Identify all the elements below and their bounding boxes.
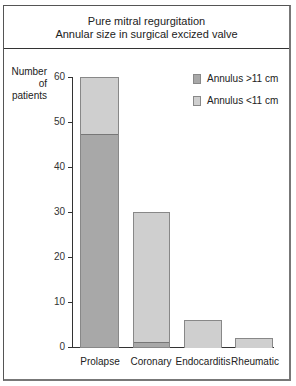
chart-title: Pure mitral regurgitation (4, 15, 289, 28)
y-tick-label: 10 (48, 297, 65, 307)
legend-label: Annulus >11 cm (207, 74, 278, 84)
chart-subtitle: Annular size in surgical excized valve (4, 28, 289, 41)
legend-swatch-dark (193, 74, 201, 84)
bar-rheumatic (235, 338, 273, 348)
y-tick-0 (68, 347, 72, 348)
y-tick-40 (68, 167, 72, 168)
y-tick-label: 60 (48, 72, 65, 82)
bar-prolapse (80, 77, 119, 348)
bar-segment-lt-11 (134, 213, 169, 344)
legend-item-annulus-lt-11: Annulus <11 cm (193, 96, 278, 106)
bar-segment-lt-11 (81, 78, 118, 136)
legend-swatch-light (193, 96, 201, 106)
y-tick-label: 40 (48, 162, 65, 172)
x-category-label: Coronary (121, 356, 181, 367)
bar-segment-gt-11 (81, 134, 118, 347)
legend-item-annulus-gt-11: Annulus >11 cm (193, 74, 278, 84)
y-tick-label: 50 (48, 117, 65, 127)
bar-coronary (133, 212, 170, 348)
y-axis-label-line2: patients (5, 90, 47, 102)
chart-title-box: Pure mitral regurgitation Annular size i… (4, 6, 289, 49)
y-tick-label: 20 (48, 252, 65, 262)
bar-segment-lt-11 (185, 321, 221, 348)
y-tick-label: 0 (48, 342, 65, 352)
bar-endocarditis (184, 320, 222, 348)
bar-segment-lt-11 (236, 339, 272, 348)
y-tick-20 (68, 257, 72, 258)
x-category-label: Endocarditis (173, 356, 233, 367)
bar-segment-gt-11 (134, 342, 169, 347)
y-axis-label-line1: Number of (5, 66, 47, 90)
y-axis-label: Number of patients (5, 66, 47, 102)
y-axis (72, 77, 73, 348)
y-tick-30 (68, 212, 72, 213)
y-tick-60 (68, 77, 72, 78)
y-tick-50 (68, 122, 72, 123)
x-category-label: Rheumatic (225, 356, 285, 367)
legend-label: Annulus <11 cm (207, 96, 278, 106)
y-tick-10 (68, 302, 72, 303)
y-tick-label: 30 (48, 207, 65, 217)
